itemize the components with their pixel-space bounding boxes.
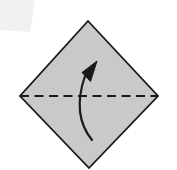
page-corner-smudge-shape	[0, 0, 35, 32]
origami-diagram-container: Origami fold step diagram Square sheet r…	[0, 0, 177, 170]
origami-diagram-svg	[0, 0, 177, 170]
